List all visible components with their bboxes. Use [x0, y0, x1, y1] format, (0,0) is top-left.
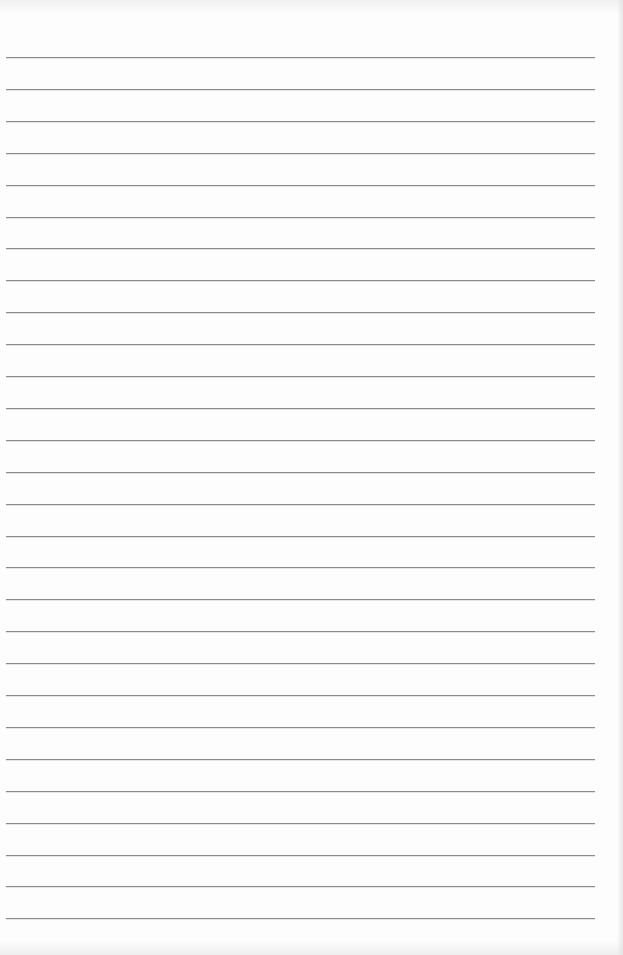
ruled-line — [6, 504, 595, 505]
ruled-line — [6, 280, 595, 281]
ruled-line — [6, 121, 595, 122]
ruled-line — [6, 791, 595, 792]
ruled-line — [6, 695, 595, 696]
ruled-line — [6, 631, 595, 632]
ruled-line — [6, 376, 595, 377]
ruled-line — [6, 918, 595, 919]
ruled-line — [6, 440, 595, 441]
paper-edge-shadow — [617, 0, 623, 955]
ruled-line — [6, 312, 595, 313]
ruled-line — [6, 567, 595, 568]
ruled-line — [6, 663, 595, 664]
ruled-line — [6, 759, 595, 760]
ruled-line — [6, 855, 595, 856]
ruled-line — [6, 185, 595, 186]
ruled-line — [6, 248, 595, 249]
ruled-line — [6, 217, 595, 218]
ruled-line — [6, 599, 595, 600]
ruled-line — [6, 727, 595, 728]
ruled-line — [6, 823, 595, 824]
ruled-line — [6, 408, 595, 409]
lined-paper-page — [0, 0, 623, 955]
ruled-line — [6, 153, 595, 154]
ruled-line — [6, 886, 595, 887]
ruled-line — [6, 472, 595, 473]
ruled-line — [6, 57, 595, 58]
ruled-line — [6, 344, 595, 345]
ruled-line — [6, 89, 595, 90]
ruled-line — [6, 536, 595, 537]
